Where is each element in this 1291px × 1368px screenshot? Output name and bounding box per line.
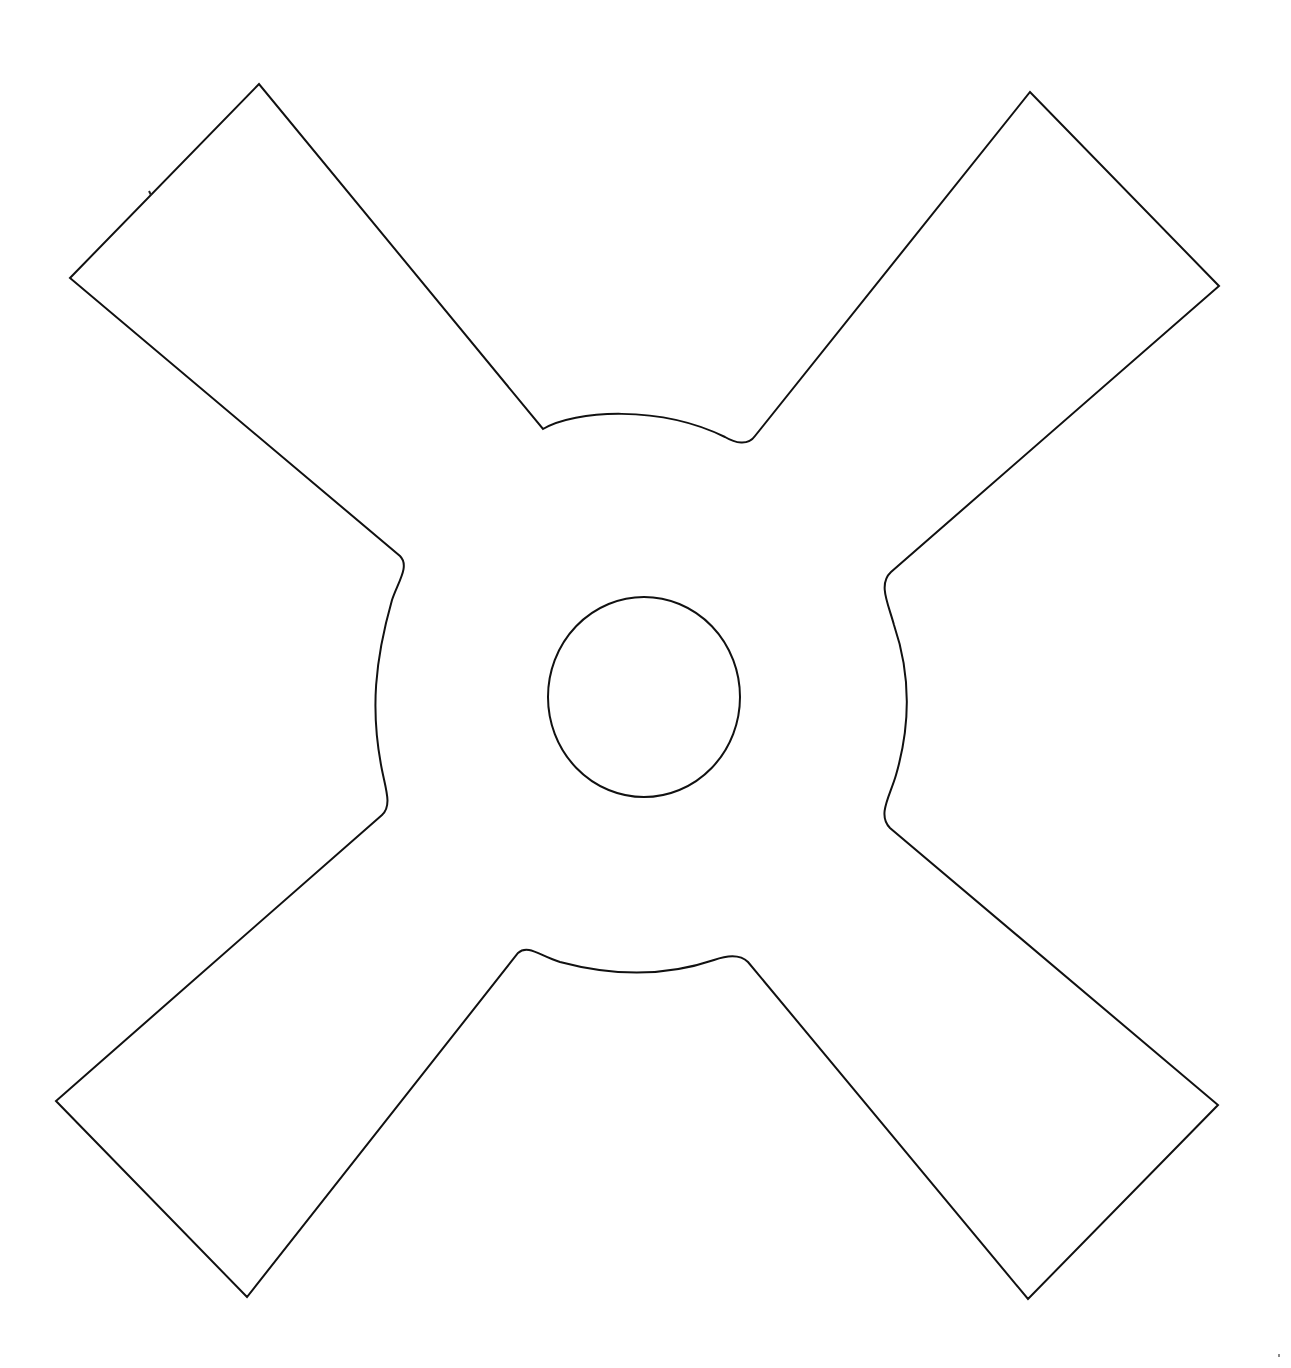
- center-circle-hole: [548, 597, 740, 797]
- stray-tick-mark: [149, 191, 151, 195]
- diagram-canvas: [0, 0, 1291, 1368]
- stray-speck: [1278, 1354, 1280, 1357]
